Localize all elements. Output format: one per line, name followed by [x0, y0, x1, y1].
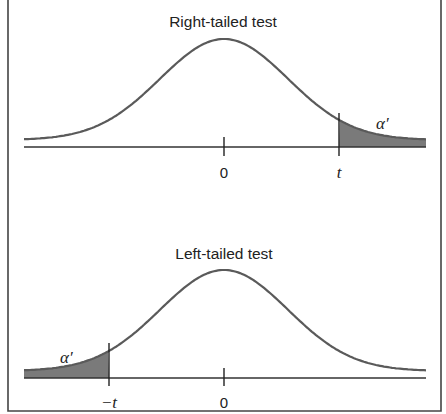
figure-frame: [8, 0, 441, 411]
left-tailed-title: Left-tailed test: [175, 245, 273, 262]
right-panel-center-label: 0: [220, 164, 228, 181]
left-panel-density-curve: [24, 270, 426, 370]
left-tailed-panel: Left-tailed test 0 −t α′: [24, 245, 426, 412]
right-tailed-panel: Right-tailed test 0 t α′: [24, 13, 426, 182]
right-tailed-title: Right-tailed test: [169, 13, 277, 30]
right-panel-density-curve: [24, 39, 426, 139]
right-panel-alpha-label: α′: [376, 114, 389, 133]
left-panel-alpha-label: α′: [60, 348, 73, 367]
right-panel-critical-label: t: [337, 163, 343, 182]
left-panel-center-label: 0: [220, 394, 228, 411]
hypothesis-test-diagram: Right-tailed test 0 t α′ Left-tailed tes…: [0, 0, 446, 414]
left-panel-critical-label: −t: [101, 393, 118, 412]
